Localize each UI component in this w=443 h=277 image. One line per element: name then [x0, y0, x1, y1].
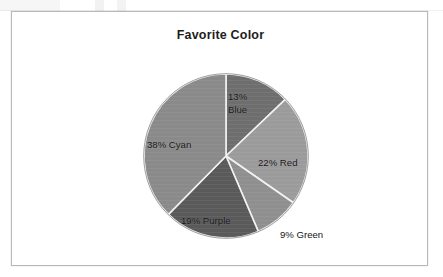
pie-label-purple: 19% Purple [181, 215, 231, 228]
pie-scan-overlay [144, 74, 308, 238]
scan-artifact [0, 0, 443, 11]
chart-frame: Favorite Color [11, 11, 428, 266]
pie-label-cyan: 38% Cyan [147, 139, 191, 152]
pie-label-green: 9% Green [280, 229, 323, 242]
pie-label-blue-percent: 13% [228, 91, 247, 102]
pie-chart-svg [12, 12, 429, 267]
pie-label-red: 22% Red [258, 157, 297, 170]
pie-plot-area: 13% Blue 22% Red 9% Green 19% Purple 38%… [12, 12, 429, 267]
pie-label-blue-name: Blue [228, 104, 247, 115]
pie-label-blue: 13% Blue [228, 91, 262, 116]
